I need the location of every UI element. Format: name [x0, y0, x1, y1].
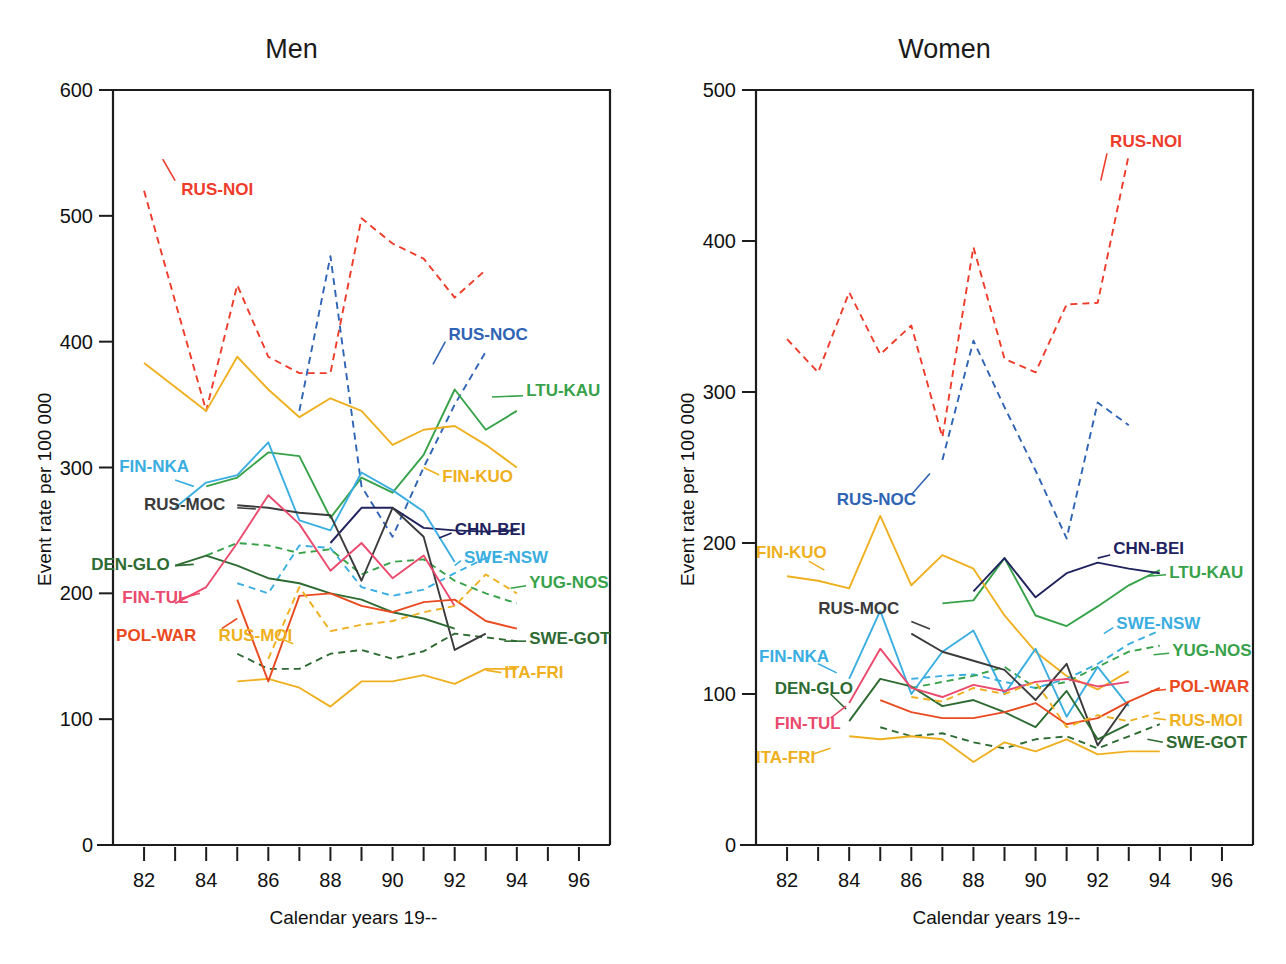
- x-tick-label: 88: [319, 869, 341, 891]
- series-line-ltu-kau: [206, 389, 517, 517]
- y-tick-label: 300: [60, 457, 93, 479]
- series-label-swe-nsw: SWE-NSW: [464, 548, 549, 567]
- series-label-chn-bei: CHN-BEI: [1113, 539, 1184, 558]
- series-label-leader: [1098, 555, 1110, 558]
- x-tick-label: 96: [568, 869, 590, 891]
- series-label-rus-moi: RUS-MOI: [219, 626, 293, 645]
- y-tick-label: 300: [703, 381, 736, 403]
- series-label-pol-war: POL-WAR: [116, 626, 196, 645]
- series-label-leader: [1154, 718, 1166, 720]
- y-tick-label: 0: [725, 834, 736, 856]
- series-label-ita-fri: ITA-FRI: [504, 663, 563, 682]
- series-label-rus-noi: RUS-NOI: [1110, 132, 1182, 151]
- y-tick-label: 600: [60, 79, 93, 101]
- series-label-rus-noc: RUS-NOC: [837, 490, 916, 509]
- series-label-leader: [1101, 153, 1107, 180]
- series-label-leader: [175, 480, 194, 486]
- x-tick-label: 84: [838, 869, 860, 891]
- series-label-yug-nos: YUG-NOS: [1172, 641, 1251, 660]
- series-line-fin-kuo: [144, 357, 517, 468]
- x-tick-label: 94: [1149, 869, 1171, 891]
- x-tick-label: 82: [133, 869, 155, 891]
- series-label-fin-kuo: FIN-KUO: [442, 467, 513, 486]
- x-axis-label-women: Calendar years 19--: [913, 907, 1081, 929]
- panel-men: Men 01002003004005006008284868890929496R…: [0, 0, 643, 964]
- series-line-rus-noc: [299, 256, 485, 537]
- series-label-leader: [237, 508, 256, 509]
- series-label-leader: [1150, 689, 1166, 691]
- y-axis-label-women: Event rate per 100 000: [677, 392, 699, 585]
- series-label-leader: [511, 586, 527, 589]
- series-label-ltu-kau: LTU-KAU: [1169, 563, 1243, 582]
- x-tick-label: 90: [1024, 869, 1046, 891]
- series-label-rus-noi: RUS-NOI: [181, 180, 253, 199]
- series-label-leader: [1154, 653, 1170, 655]
- series-label-fin-tul: FIN-TUL: [122, 588, 188, 607]
- y-tick-label: 500: [60, 205, 93, 227]
- series-line-swe-nsw: [911, 631, 1160, 688]
- series-label-leader: [163, 159, 175, 180]
- series-label-leader: [424, 468, 440, 476]
- series-label-pol-war: POL-WAR: [1169, 677, 1249, 696]
- series-label-fin-nka: FIN-NKA: [759, 647, 829, 666]
- y-tick-label: 200: [703, 532, 736, 554]
- x-tick-label: 92: [1087, 869, 1109, 891]
- x-tick-label: 90: [381, 869, 403, 891]
- series-line-swe-got: [880, 724, 1160, 748]
- series-label-fin-kuo: FIN-KUO: [756, 543, 827, 562]
- series-label-rus-moc: RUS-MOC: [818, 599, 899, 618]
- plot-men: 01002003004005006008284868890929496RUS-N…: [0, 0, 643, 964]
- series-label-leader: [439, 533, 451, 538]
- y-tick-label: 400: [60, 331, 93, 353]
- y-tick-label: 100: [60, 708, 93, 730]
- x-tick-label: 88: [962, 869, 984, 891]
- x-axis-label-men: Calendar years 19--: [270, 907, 438, 929]
- series-label-leader: [1104, 628, 1113, 634]
- x-tick-label: 96: [1211, 869, 1233, 891]
- series-label-leader: [486, 670, 502, 673]
- y-tick-label: 500: [703, 79, 736, 101]
- series-label-fin-nka: FIN-NKA: [119, 457, 189, 476]
- series-label-ita-fri: ITA-FRI: [756, 748, 815, 767]
- series-label-den-glo: DEN-GLO: [91, 555, 169, 574]
- series-label-rus-noc: RUS-NOC: [448, 325, 527, 344]
- series-label-leader: [1147, 739, 1163, 742]
- series-line-ita-fri: [237, 669, 517, 707]
- series-line-fin-tul: [849, 649, 1129, 703]
- series-line-den-glo: [175, 556, 455, 629]
- series-label-leader: [492, 396, 523, 397]
- x-tick-label: 86: [900, 869, 922, 891]
- series-label-swe-nsw: SWE-NSW: [1116, 614, 1201, 633]
- figure-root: Men 01002003004005006008284868890929496R…: [0, 0, 1286, 964]
- series-line-ita-fri: [849, 736, 1160, 762]
- series-label-rus-moc: RUS-MOC: [144, 495, 225, 514]
- series-label-leader: [455, 561, 461, 566]
- y-tick-label: 200: [60, 582, 93, 604]
- y-tick-label: 400: [703, 230, 736, 252]
- series-line-rus-noi: [144, 191, 486, 411]
- series-label-rus-moi: RUS-MOI: [1169, 711, 1243, 730]
- series-label-leader: [809, 561, 825, 570]
- x-tick-label: 92: [444, 869, 466, 891]
- panel-women: Women 01002003004005008284868890929496RU…: [643, 0, 1286, 964]
- series-label-leader: [433, 342, 445, 365]
- series-line-rus-noi: [787, 155, 1129, 437]
- series-label-yug-nos: YUG-NOS: [529, 573, 608, 592]
- series-label-swe-got: SWE-GOT: [1166, 733, 1248, 752]
- series-line-chn-bei: [973, 558, 1159, 597]
- series-line-rus-noc: [942, 341, 1128, 539]
- plot-women: 01002003004005008284868890929496RUS-NOIR…: [643, 0, 1286, 964]
- x-tick-label: 86: [257, 869, 279, 891]
- series-label-ltu-kau: LTU-KAU: [526, 381, 600, 400]
- y-tick-label: 0: [82, 834, 93, 856]
- series-label-chn-bei: CHN-BEI: [455, 520, 526, 539]
- x-tick-label: 94: [506, 869, 528, 891]
- y-axis-label-men: Event rate per 100 000: [34, 392, 56, 585]
- x-tick-label: 82: [776, 869, 798, 891]
- x-tick-label: 84: [195, 869, 217, 891]
- series-label-leader: [911, 622, 930, 630]
- series-label-den-glo: DEN-GLO: [775, 679, 853, 698]
- series-label-swe-got: SWE-GOT: [529, 629, 611, 648]
- series-label-fin-tul: FIN-TUL: [775, 714, 841, 733]
- y-tick-label: 100: [703, 683, 736, 705]
